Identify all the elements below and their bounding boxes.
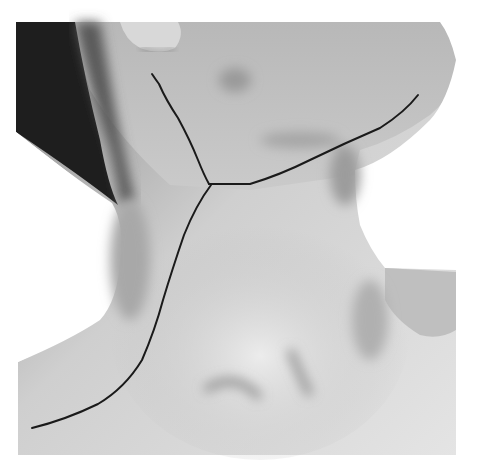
photo-canvas bbox=[0, 0, 482, 472]
neck-photograph bbox=[0, 0, 482, 472]
